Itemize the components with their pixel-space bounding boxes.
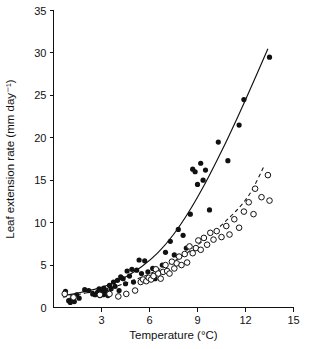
y-tick-label: 20	[34, 132, 46, 144]
data-point-open	[251, 211, 257, 217]
axes-group	[50, 11, 294, 312]
data-point-open	[182, 251, 188, 257]
y-axis-title: Leaf extension rate (mm day⁻¹)	[4, 79, 16, 239]
data-point-open	[176, 254, 182, 260]
data-point-open	[208, 230, 214, 236]
data-point-open	[97, 292, 103, 298]
data-point-filled	[195, 182, 200, 187]
x-tick-label: 15	[287, 314, 299, 326]
data-point-filled	[127, 274, 132, 279]
data-point-filled	[117, 288, 122, 293]
data-point-open	[187, 244, 193, 250]
data-point-open	[201, 235, 207, 241]
data-point-filled	[139, 271, 144, 276]
data-point-open	[107, 291, 113, 297]
data-point-open	[214, 228, 220, 234]
data-point-filled	[145, 269, 150, 274]
data-point-filled	[237, 122, 242, 127]
data-point-filled	[216, 139, 221, 144]
data-point-filled	[188, 212, 193, 217]
data-point-filled	[168, 239, 173, 244]
fitted-curves-group	[63, 49, 268, 298]
data-point-filled	[225, 158, 230, 163]
data-point-filled	[77, 296, 82, 301]
data-point-open	[132, 288, 138, 294]
data-point-filled	[125, 268, 130, 273]
data-point-open	[219, 234, 225, 240]
x-tick-label: 3	[98, 314, 104, 326]
x-tick-label: 12	[239, 314, 251, 326]
data-point-filled	[198, 161, 203, 166]
axis-labels-group: 051015202530353691215Temperature (°C)Lea…	[4, 5, 300, 342]
x-tick-label: 6	[146, 314, 152, 326]
data-points-group	[62, 55, 272, 305]
x-axis-title: Temperature (°C)	[129, 329, 217, 341]
dashed-exponential-fit	[63, 165, 265, 297]
data-point-open	[62, 291, 68, 297]
y-tick-label: 0	[40, 302, 46, 314]
data-point-open	[265, 172, 271, 178]
data-point-open	[224, 223, 230, 229]
y-tick-label: 30	[34, 47, 46, 59]
data-point-filled	[201, 178, 206, 183]
data-point-filled	[193, 169, 198, 174]
data-point-open	[241, 209, 247, 215]
y-tick-label: 25	[34, 89, 46, 101]
data-point-open	[184, 260, 190, 266]
y-tick-label: 10	[34, 217, 46, 229]
data-point-open	[196, 238, 202, 244]
data-point-open	[163, 262, 169, 268]
data-point-filled	[86, 288, 91, 293]
data-point-filled	[163, 250, 168, 255]
data-point-open	[267, 198, 273, 204]
figure-container: 051015202530353691215Temperature (°C)Lea…	[0, 0, 309, 349]
y-tick-label: 15	[34, 174, 46, 186]
data-point-filled	[131, 279, 136, 284]
data-point-open	[232, 216, 238, 222]
y-tick-label: 5	[40, 259, 46, 271]
data-point-filled	[207, 207, 212, 212]
data-point-filled	[134, 268, 139, 273]
data-point-open	[71, 295, 77, 301]
data-point-filled	[203, 167, 208, 172]
data-point-filled	[241, 97, 246, 102]
data-point-open	[167, 271, 173, 277]
data-point-filled	[113, 284, 118, 289]
data-point-open	[246, 199, 252, 205]
data-point-filled	[142, 258, 147, 263]
data-point-filled	[137, 257, 142, 262]
data-point-filled	[129, 267, 134, 272]
data-point-open	[227, 232, 233, 238]
data-point-open	[158, 276, 164, 282]
data-point-filled	[267, 55, 272, 60]
solid-exponential-fit	[63, 49, 268, 296]
data-point-open	[190, 250, 196, 256]
data-point-open	[252, 186, 258, 192]
data-point-filled	[176, 227, 181, 232]
x-tick-label: 9	[194, 314, 200, 326]
data-point-open	[198, 247, 204, 253]
data-point-filled	[181, 233, 186, 238]
data-point-open	[204, 242, 210, 248]
data-point-open	[116, 294, 122, 300]
data-point-open	[259, 194, 265, 200]
data-point-open	[179, 262, 185, 268]
y-tick-label: 35	[34, 5, 46, 17]
scatter-plot: 051015202530353691215Temperature (°C)Lea…	[0, 0, 309, 349]
data-point-open	[236, 225, 242, 231]
data-point-filled	[121, 276, 126, 281]
data-point-filled	[123, 281, 128, 286]
data-point-open	[124, 291, 130, 297]
data-point-open	[211, 237, 217, 243]
